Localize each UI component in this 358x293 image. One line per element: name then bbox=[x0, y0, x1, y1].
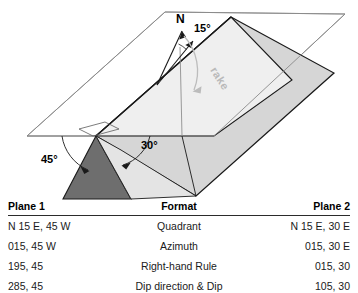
figure-root: N 15° 45° 30° rake Plane 1 Format Plane … bbox=[0, 0, 358, 293]
header-plane2: Plane 2 bbox=[237, 198, 350, 216]
table-row: 015, 45 W Azimuth 015, 30 E bbox=[8, 236, 350, 256]
dip-angle-plane2-label: 30° bbox=[141, 139, 158, 151]
cell-plane2: N 15 E, 30 E bbox=[237, 216, 350, 237]
cell-plane1: 195, 45 bbox=[8, 256, 121, 276]
dip-angle-plane1-label: 45° bbox=[41, 153, 58, 165]
cell-format: Dip direction & Dip bbox=[121, 276, 237, 293]
cell-format: Right-hand Rule bbox=[121, 256, 237, 276]
notation-table: Plane 1 Format Plane 2 N 15 E, 45 W Quad… bbox=[8, 198, 350, 293]
cell-format: Quadrant bbox=[121, 216, 237, 237]
cell-plane2: 015, 30 E bbox=[237, 236, 350, 256]
north-label: N bbox=[176, 12, 185, 26]
block-diagram: N 15° 45° 30° rake bbox=[0, 0, 358, 200]
header-plane1: Plane 1 bbox=[8, 198, 121, 216]
table-header-row: Plane 1 Format Plane 2 bbox=[8, 198, 350, 216]
cell-plane2: 015, 30 bbox=[237, 256, 350, 276]
cell-plane2: 105, 30 bbox=[237, 276, 350, 293]
cell-plane1: 015, 45 W bbox=[8, 236, 121, 256]
strike-angle-label: 15° bbox=[194, 22, 211, 34]
cell-format: Azimuth bbox=[121, 236, 237, 256]
header-format: Format bbox=[121, 198, 237, 216]
cell-plane1: N 15 E, 45 W bbox=[8, 216, 121, 237]
table-row: 195, 45 Right-hand Rule 015, 30 bbox=[8, 256, 350, 276]
cell-plane1: 285, 45 bbox=[8, 276, 121, 293]
table-row: 285, 45 Dip direction & Dip 105, 30 bbox=[8, 276, 350, 293]
table-row: N 15 E, 45 W Quadrant N 15 E, 30 E bbox=[8, 216, 350, 237]
